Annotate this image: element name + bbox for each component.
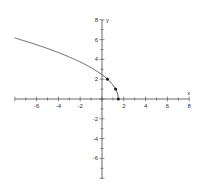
curve [15, 38, 119, 99]
y-tick-label: 8 [95, 17, 99, 23]
x-tick-label: -4 [56, 103, 62, 109]
x-tick-label: -6 [34, 103, 40, 109]
y-tick-label: 6 [95, 37, 99, 43]
y-tick-label: -6 [93, 155, 99, 161]
y-tick-label: 2 [95, 76, 99, 82]
x-tick-label: 2 [122, 103, 126, 109]
x-tick-label: 4 [144, 103, 148, 109]
y-tick-label: -2 [93, 116, 99, 122]
data-point [106, 78, 109, 81]
x-tick-label: -2 [78, 103, 84, 109]
data-point [114, 88, 117, 91]
tick-labels: -6-4-224688642-2-4-6yx [34, 17, 192, 162]
x-tick-label: 6 [166, 103, 170, 109]
data-point [117, 97, 120, 100]
y-axis-label: y [106, 17, 109, 23]
y-tick-label: -4 [93, 136, 99, 142]
y-tick-label: 4 [95, 56, 99, 62]
function-graph: -6-4-224688642-2-4-6yx [0, 0, 201, 191]
x-axis-label: x [187, 90, 190, 96]
x-tick-label: 8 [188, 103, 192, 109]
